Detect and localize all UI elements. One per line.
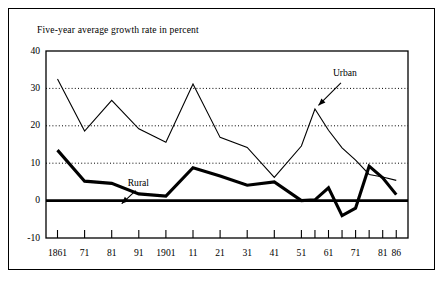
y-tick-label-30: 30 bbox=[14, 82, 40, 93]
gridlines bbox=[46, 88, 408, 163]
annotation-arrows bbox=[122, 83, 341, 204]
series-line-rural bbox=[58, 150, 397, 215]
series-label-urban: Urban bbox=[333, 67, 357, 78]
plot-area bbox=[0, 0, 443, 281]
y-tick-label--10: -10 bbox=[14, 232, 40, 243]
x-tick-label-1951: 51 bbox=[297, 247, 307, 258]
x-tick-label-1871: 71 bbox=[80, 247, 90, 258]
x-tick-label-1921: 21 bbox=[215, 247, 225, 258]
x-tick-label-1881: 81 bbox=[107, 247, 117, 258]
x-tick-label-1941: 41 bbox=[270, 247, 280, 258]
series-line-urban bbox=[58, 79, 397, 180]
y-tick-label-0: 0 bbox=[14, 194, 40, 205]
x-tick-label-1911: 11 bbox=[188, 247, 197, 258]
x-tick-label-1891: 91 bbox=[134, 247, 144, 258]
x-tick-label-1986: 86 bbox=[391, 247, 401, 258]
y-tick-label-10: 10 bbox=[14, 157, 40, 168]
y-tick-label-20: 20 bbox=[14, 119, 40, 130]
y-tick-label-40: 40 bbox=[14, 45, 40, 56]
x-tick-label-1861: 1861 bbox=[48, 247, 67, 258]
x-tick-label-1931: 31 bbox=[242, 247, 252, 258]
chart-figure: Five-year average growth rate in percent… bbox=[0, 0, 443, 281]
x-axis-ticks bbox=[58, 230, 397, 238]
series-label-rural: Rural bbox=[128, 177, 149, 188]
x-tick-label-1901: 1901 bbox=[156, 247, 175, 258]
x-tick-label-1981: 81 bbox=[378, 247, 388, 258]
x-tick-label-1971: 71 bbox=[351, 247, 361, 258]
data-series bbox=[58, 79, 397, 216]
x-tick-label-1961: 61 bbox=[324, 247, 334, 258]
